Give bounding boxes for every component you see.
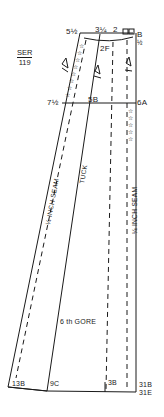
hem-left-line: [8, 387, 47, 391]
label-top-mid: 3¼: [95, 26, 107, 34]
svg-text:☆: ☆: [65, 92, 70, 98]
label-mid-right: 6A: [137, 99, 147, 107]
label-bottom-9c: 9C: [50, 380, 59, 387]
notch-stars-right: ☆ ☆ ☆ ☆ ☆: [128, 108, 133, 142]
label-bottom-31e: 31E: [139, 389, 152, 396]
svg-text:☆: ☆: [128, 108, 133, 114]
reference-number: SER 119: [17, 49, 32, 67]
label-mid-left: 7½: [47, 99, 59, 107]
label-bottom-3b: 3B: [108, 379, 117, 386]
label-gore: 6 th GORE: [60, 318, 96, 325]
svg-text:☆: ☆: [128, 136, 133, 142]
svg-text:☆: ☆: [67, 85, 72, 91]
label-bottom-13b: 13B: [12, 380, 25, 387]
svg-text:☆: ☆: [71, 71, 76, 77]
label-top-left: 5½: [66, 28, 78, 36]
label-mid-center: 5B: [88, 96, 98, 104]
label-seam-right: ¼ INCH SEAM: [131, 187, 138, 234]
svg-text:☆: ☆: [77, 50, 82, 56]
label-top-right: B: [137, 31, 143, 39]
tuck-line: [47, 34, 100, 391]
hem-line: [8, 387, 136, 392]
label-dart: 2F: [100, 45, 110, 53]
svg-text:☆: ☆: [128, 115, 133, 121]
label-top-mid2: 2: [113, 26, 118, 34]
svg-text:☆: ☆: [69, 78, 74, 84]
svg-text:☆: ☆: [79, 43, 84, 49]
dart-dash-line: [106, 42, 113, 390]
svg-text:☆: ☆: [73, 64, 78, 70]
ref-bottom: 119: [17, 57, 32, 67]
label-top-right-frac: ½: [137, 40, 143, 47]
svg-text:☆: ☆: [128, 122, 133, 128]
pattern-diagram: ☆ ☆ ☆ ☆ ☆ ☆ ☆ ☆ ☆ ☆ ☆ ☆ ☆ SER 119: [0, 0, 164, 417]
waist-curve-line: [84, 37, 133, 41]
notch-stars-left: ☆ ☆ ☆ ☆ ☆ ☆ ☆ ☆: [65, 43, 84, 98]
svg-text:☆: ☆: [75, 57, 80, 63]
svg-text:☆: ☆: [128, 129, 133, 135]
label-bottom-31b: 31B: [139, 381, 152, 388]
ref-top: SER: [17, 49, 32, 57]
